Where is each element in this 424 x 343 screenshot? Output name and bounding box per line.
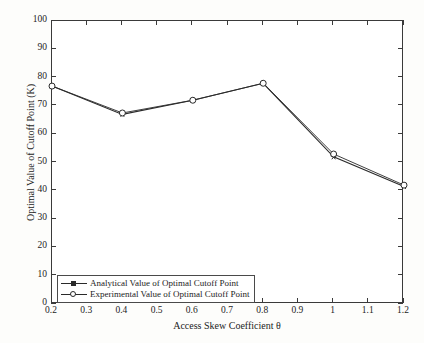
y-tick-label: 90 bbox=[7, 43, 47, 53]
x-tick-bottom bbox=[367, 298, 368, 303]
x-tick-label: 0.2 bbox=[31, 306, 71, 316]
x-tick-bottom bbox=[332, 298, 333, 303]
y-tick-left bbox=[51, 133, 56, 134]
legend-item-analytical: Analytical Value of Optimal Cutoff Point bbox=[61, 278, 249, 289]
x-axis-title: Access Skew Coefficient θ bbox=[51, 320, 403, 331]
y-tick-left bbox=[51, 246, 56, 247]
y-tick-left bbox=[51, 76, 56, 77]
series-line bbox=[52, 83, 404, 185]
x-tick-label: 0.3 bbox=[66, 306, 106, 316]
y-tick-right bbox=[398, 76, 403, 77]
legend-label-analytical: Analytical Value of Optimal Cutoff Point bbox=[87, 278, 238, 289]
x-tick-label: 0.6 bbox=[172, 306, 212, 316]
x-tick-top bbox=[403, 20, 404, 25]
x-tick-top bbox=[191, 20, 192, 25]
x-tick-top bbox=[121, 20, 122, 25]
x-tick-label: 0.9 bbox=[277, 306, 317, 316]
y-tick-left bbox=[51, 303, 56, 304]
y-tick-right bbox=[398, 246, 403, 247]
y-tick-left bbox=[51, 189, 56, 190]
y-tick-left bbox=[51, 218, 56, 219]
x-tick-label: 1.2 bbox=[383, 306, 423, 316]
plot-area bbox=[51, 20, 403, 303]
x-tick-top bbox=[86, 20, 87, 25]
y-tick-left bbox=[51, 104, 56, 105]
y-tick-right bbox=[398, 189, 403, 190]
y-tick-right bbox=[398, 104, 403, 105]
y-tick-right bbox=[398, 161, 403, 162]
figure-canvas: 0102030405060708090100 0.20.30.40.50.60.… bbox=[0, 0, 424, 343]
series-layer bbox=[52, 21, 404, 304]
x-tick-label: 0.4 bbox=[101, 306, 141, 316]
x-tick-top bbox=[297, 20, 298, 25]
x-tick-label: 0.5 bbox=[137, 306, 177, 316]
y-tick-right bbox=[398, 133, 403, 134]
x-tick-top bbox=[262, 20, 263, 25]
y-tick-right bbox=[398, 218, 403, 219]
data-point-circle-icon bbox=[331, 151, 337, 157]
y-tick-right bbox=[398, 48, 403, 49]
x-tick-label: 1 bbox=[313, 306, 353, 316]
y-tick-label: 10 bbox=[7, 270, 47, 280]
x-tick-bottom bbox=[262, 298, 263, 303]
x-tick-label: 0.8 bbox=[242, 306, 282, 316]
data-point-circle-icon bbox=[401, 182, 407, 188]
y-tick-left bbox=[51, 274, 56, 275]
y-tick-right bbox=[398, 274, 403, 275]
y-tick-left bbox=[51, 20, 56, 21]
legend-label-experimental: Experimental Value of Optimal Cutoff Poi… bbox=[87, 289, 249, 300]
data-point-circle-icon bbox=[119, 110, 125, 116]
x-tick-bottom bbox=[403, 298, 404, 303]
legend-item-experimental: Experimental Value of Optimal Cutoff Poi… bbox=[61, 289, 249, 300]
data-point-circle-icon bbox=[49, 83, 55, 89]
x-tick-top bbox=[227, 20, 228, 25]
legend-marker-star-icon bbox=[61, 278, 87, 289]
y-tick-left bbox=[51, 48, 56, 49]
x-tick-bottom bbox=[51, 298, 52, 303]
x-tick-top bbox=[367, 20, 368, 25]
y-axis-title: Optimal Value of Cutoff Point (K) bbox=[25, 53, 36, 253]
x-tick-top bbox=[332, 20, 333, 25]
x-tick-bottom bbox=[297, 298, 298, 303]
data-point-circle-icon bbox=[190, 97, 196, 103]
y-tick-label: 100 bbox=[7, 15, 47, 25]
x-tick-label: 0.7 bbox=[207, 306, 247, 316]
x-tick-label: 1.1 bbox=[348, 306, 388, 316]
chart-legend: Analytical Value of Optimal Cutoff Point… bbox=[57, 275, 255, 303]
y-tick-left bbox=[51, 161, 56, 162]
data-point-circle-icon bbox=[260, 80, 266, 86]
x-tick-top bbox=[51, 20, 52, 25]
x-tick-top bbox=[156, 20, 157, 25]
legend-marker-circle-icon bbox=[61, 289, 87, 300]
series-line bbox=[52, 83, 404, 186]
